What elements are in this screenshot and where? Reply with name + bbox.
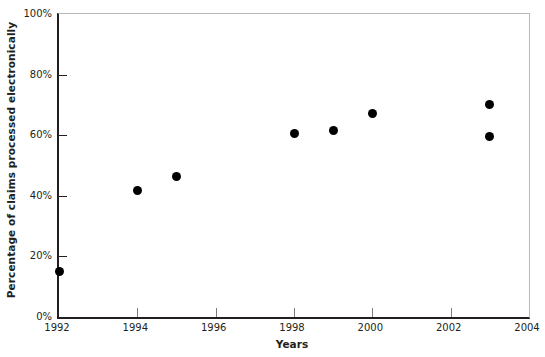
x-axis-tick [451,308,452,317]
x-axis-tick-labels: 1992199419961998200020022004 [0,322,545,338]
y-axis-tick-label: 60% [6,129,52,140]
x-axis-tick-label: 1996 [184,322,244,333]
data-point [172,172,181,181]
scatter-chart: Percentage of claims processed electroni… [0,0,545,357]
y-axis-tick [59,135,67,136]
x-axis-tick-label: 2002 [419,322,479,333]
data-point [485,100,494,109]
x-axis-tick-label: 2000 [340,322,400,333]
x-axis-title: Years [57,338,527,350]
x-axis-tick [372,308,373,317]
x-axis-tick-label: 1994 [105,322,165,333]
y-axis-tick-label: 40% [6,189,52,200]
data-point [133,186,142,195]
y-axis-tick-label: 80% [6,68,52,79]
data-point [290,129,299,138]
data-point [368,109,377,118]
x-axis-tick [294,308,295,317]
data-point [485,132,494,141]
x-axis-tick [137,308,138,317]
x-axis-tick-label: 1998 [262,322,322,333]
x-axis-tick-label: 1992 [27,322,87,333]
y-axis-tick [59,75,67,76]
y-axis-tick-label: 100% [6,8,52,19]
data-point [55,267,64,276]
x-axis-tick [216,308,217,317]
plot-area [57,13,530,319]
y-axis-tick-labels: 0%20%40%60%80%100% [0,13,52,316]
y-axis-tick-label: 0% [6,311,52,322]
y-axis-tick [59,256,67,257]
x-axis-tick-label: 2004 [497,322,545,333]
y-axis-tick-label: 20% [6,250,52,261]
y-axis-tick [59,196,67,197]
data-point [329,126,338,135]
